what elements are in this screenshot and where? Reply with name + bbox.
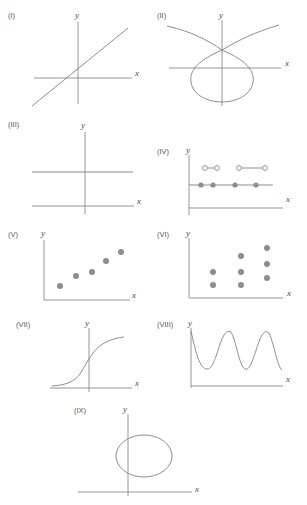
panel-label-II: (II) xyxy=(157,11,166,20)
axis-label-y-II: y xyxy=(219,10,223,20)
axis-label-y-III: y xyxy=(81,120,85,130)
panel-label-IX: (IX) xyxy=(74,406,86,415)
scatter-point-V xyxy=(103,258,109,264)
panel-V: (V) y x xyxy=(4,228,152,316)
panel-I: (I) y x xyxy=(4,8,152,113)
axis-label-x-V: x xyxy=(132,290,136,300)
scatter-point-V xyxy=(73,273,79,279)
axis-label-y-V: y xyxy=(41,228,45,238)
graph-VIII xyxy=(155,318,303,406)
panel-III: (III) y x xyxy=(4,118,152,218)
panel-VIII: (VIII) y x xyxy=(155,318,303,406)
axis-label-x-IV: x xyxy=(286,194,290,204)
axis-label-x-II: x xyxy=(285,58,289,68)
panel-label-VIII: (VIII) xyxy=(157,320,173,329)
graph-V xyxy=(4,228,152,316)
open-point-IV xyxy=(237,166,242,171)
scatter-point-VI xyxy=(210,282,216,288)
panel-label-IV: (IV) xyxy=(157,147,169,156)
graph-II xyxy=(155,8,303,113)
panel-label-VII: (VII) xyxy=(16,320,30,329)
scatter-point-VI xyxy=(264,245,270,251)
panel-VII: (VII) y x xyxy=(4,318,152,406)
axis-label-y-IV: y xyxy=(186,145,190,155)
panel-IV: (IV) y x xyxy=(155,145,303,220)
panel-label-III: (III) xyxy=(8,120,19,129)
scatter-point-V xyxy=(57,283,63,289)
closed-point-IV xyxy=(232,182,237,187)
panel-label-VI: (VI) xyxy=(157,230,169,239)
axis-label-x-VII: x xyxy=(135,378,139,388)
panel-II: (II) y x xyxy=(155,8,303,113)
axis-label-y-VIII: y xyxy=(188,318,192,328)
closed-point-IV xyxy=(210,182,215,187)
branch-right-II xyxy=(222,25,279,50)
open-point-IV xyxy=(203,166,208,171)
scatter-point-VI xyxy=(210,269,216,275)
axis-label-y-VI: y xyxy=(186,228,190,238)
panel-VI: (VI) y x xyxy=(155,228,303,316)
axis-label-y-VII: y xyxy=(85,318,89,328)
axis-label-y-IX: y xyxy=(123,404,127,414)
axis-label-x-I: x xyxy=(135,68,139,78)
axis-label-x-III: x xyxy=(137,196,141,206)
closed-point-IV xyxy=(198,182,203,187)
graph-VII xyxy=(4,318,152,406)
graph-III xyxy=(4,118,152,218)
scatter-point-VI xyxy=(264,275,270,281)
axis-label-x-VI: x xyxy=(287,288,291,298)
panel-IX: (IX) y x xyxy=(62,404,242,502)
sine-wave-VIII xyxy=(191,331,282,370)
axis-label-x-VIII: x xyxy=(286,374,290,384)
scatter-point-VI xyxy=(238,269,244,275)
panel-label-I: (I) xyxy=(8,11,15,20)
graph-VI xyxy=(155,228,303,316)
ellipse-curve-IX xyxy=(116,435,172,477)
graph-I xyxy=(4,8,152,113)
scatter-point-V xyxy=(118,249,124,255)
open-point-IV xyxy=(263,166,268,171)
line-curve-I xyxy=(32,28,128,106)
axis-label-y-I: y xyxy=(75,10,79,20)
branch-left-II xyxy=(167,26,222,50)
graph-IX xyxy=(62,404,242,502)
scatter-point-VI xyxy=(264,261,270,267)
scatter-point-V xyxy=(89,269,95,275)
sigmoid-curve-VII xyxy=(52,337,124,386)
closed-point-IV xyxy=(253,182,258,187)
panel-label-V: (V) xyxy=(8,230,18,239)
open-point-IV xyxy=(215,166,220,171)
axis-label-x-IX: x xyxy=(195,484,199,494)
scatter-point-VI xyxy=(238,282,244,288)
graph-IV xyxy=(155,145,303,220)
scatter-point-VI xyxy=(238,253,244,259)
